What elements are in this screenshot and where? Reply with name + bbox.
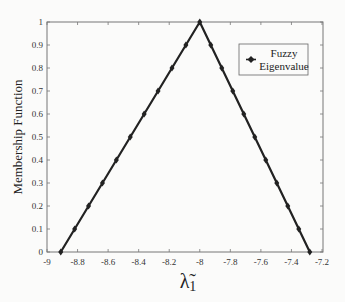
x-tick-label: -7.2	[315, 257, 329, 267]
x-axis-title: λ̃1	[180, 270, 197, 294]
y-axis-title: Membership Function	[10, 79, 25, 195]
y-tick-label: 0.1	[32, 224, 43, 234]
x-tick-label: -7.8	[223, 257, 238, 267]
y-tick-label: 0.5	[32, 132, 44, 142]
y-tick-label: 0.7	[32, 86, 44, 96]
y-tick-label: 0.9	[32, 40, 44, 50]
y-tick-label: 0	[39, 247, 44, 257]
legend-label-line1: Fuzzy	[271, 47, 298, 59]
x-tick-label: -8	[196, 257, 204, 267]
x-tick-label: -7.6	[254, 257, 269, 267]
legend-label-line2: Eigenvalue	[259, 60, 309, 72]
x-tick-label: -7.4	[284, 257, 299, 267]
x-tick-label: -8.4	[132, 257, 147, 267]
x-tick-label: -8.2	[162, 257, 176, 267]
x-tick-label: -8.8	[70, 257, 85, 267]
membership-function-chart: -9-8.8-8.6-8.4-8.2-8-7.8-7.6-7.4-7.2 00.…	[0, 0, 345, 302]
legend: Fuzzy Eigenvalue	[239, 44, 309, 75]
y-tick-label: 0.2	[32, 201, 43, 211]
y-tick-label: 0.6	[32, 109, 44, 119]
x-tick-label: -9	[43, 257, 51, 267]
y-tick-label: 0.4	[32, 155, 44, 165]
x-tick-label: -8.6	[101, 257, 116, 267]
y-tick-label: 0.8	[32, 63, 44, 73]
y-tick-label: 1	[39, 17, 44, 27]
y-tick-label: 0.3	[32, 178, 44, 188]
